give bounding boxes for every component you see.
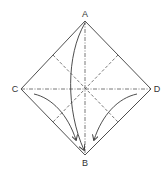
label-c: C [12,84,19,94]
origami-diagram: A B C D [0,0,167,173]
arrow-d-to-b [94,94,137,140]
label-d: D [154,84,161,94]
label-b: B [82,158,88,168]
arrow-c-to-b [34,94,76,140]
crease-diagonal-2 [53,55,118,122]
label-a: A [82,9,88,19]
